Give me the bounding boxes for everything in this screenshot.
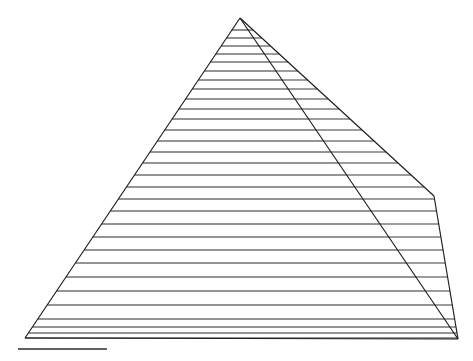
step-pyramid-drawing [0, 0, 473, 361]
figure-root [0, 0, 473, 361]
